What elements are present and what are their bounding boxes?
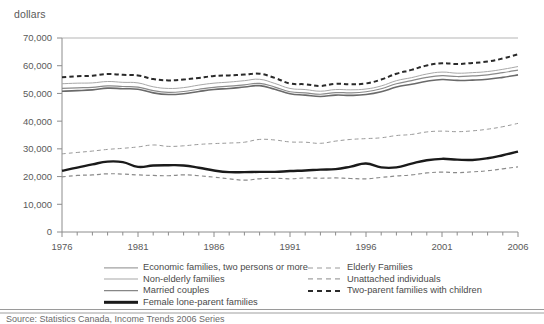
- line-chart-canvas: 010,00020,00030,00040,00050,00060,00070,…: [0, 0, 544, 262]
- legend-swatch-icon: [104, 297, 138, 307]
- x-axis-tick-label: 1976: [51, 241, 72, 252]
- legend-item-label: Economic families, two persons or more: [143, 262, 308, 273]
- legend-item[interactable]: Female lone-parent families: [104, 297, 308, 308]
- legend-column-left: Economic families, two persons or moreNo…: [104, 262, 308, 308]
- x-axis-ticks: 1976198119861991199620012006: [51, 232, 528, 252]
- y-axis-tick-label: 60,000: [23, 60, 52, 71]
- x-axis-tick-label: 1991: [279, 241, 300, 252]
- legend-swatch-icon: [104, 286, 138, 296]
- y-axis-tick-label: 10,000: [23, 199, 52, 210]
- legend-column-right: Elderly FamiliesUnattached individualsTw…: [308, 262, 482, 297]
- legend-item[interactable]: Two-parent families with children: [308, 285, 482, 296]
- x-axis-tick-label: 1996: [355, 241, 376, 252]
- legend-item-label: Two-parent families with children: [347, 285, 482, 296]
- legend-item[interactable]: Elderly Families: [308, 262, 482, 273]
- x-axis-tick-label: 2006: [507, 241, 528, 252]
- y-axis-tick-label: 40,000: [23, 116, 52, 127]
- legend-item-label: Female lone-parent families: [143, 297, 258, 308]
- legend-swatch-icon: [308, 263, 342, 273]
- legend-swatch-icon: [308, 286, 342, 296]
- legend-item[interactable]: Non-elderly families: [104, 274, 308, 285]
- series-line: [62, 75, 518, 97]
- legend-item[interactable]: Economic families, two persons or more: [104, 262, 308, 273]
- legend-swatch-icon: [104, 263, 138, 273]
- footer-rule-upper: [0, 309, 544, 310]
- series-line: [62, 152, 518, 173]
- data-series-group: [62, 54, 518, 180]
- legend-item-label: Unattached individuals: [347, 274, 441, 285]
- series-line: [62, 167, 518, 180]
- legend-swatch-icon: [308, 274, 342, 284]
- x-axis-tick-label: 1981: [127, 241, 148, 252]
- x-axis-tick-label: 1986: [203, 241, 224, 252]
- source-note: Source: Statistics Canada, Income Trends…: [6, 314, 225, 324]
- y-axis-tick-label: 0: [47, 226, 52, 237]
- y-axis-ticks: 010,00020,00030,00040,00050,00060,00070,…: [23, 32, 62, 237]
- series-line: [62, 54, 518, 86]
- legend-item[interactable]: Unattached individuals: [308, 274, 482, 285]
- legend-item-label: Non-elderly families: [143, 274, 225, 285]
- legend-item[interactable]: Married couples: [104, 285, 308, 296]
- series-line: [62, 67, 518, 92]
- y-axis-tick-label: 30,000: [23, 143, 52, 154]
- y-axis-tick-label: 70,000: [23, 32, 52, 43]
- legend-item-label: Married couples: [143, 285, 209, 296]
- y-axis-tick-label: 20,000: [23, 171, 52, 182]
- x-axis-tick-label: 2001: [431, 241, 452, 252]
- chart-legend: Economic families, two persons or moreNo…: [0, 262, 544, 308]
- legend-item-label: Elderly Families: [347, 262, 413, 273]
- legend-swatch-icon: [104, 274, 138, 284]
- y-axis-tick-label: 50,000: [23, 88, 52, 99]
- series-line: [62, 123, 518, 153]
